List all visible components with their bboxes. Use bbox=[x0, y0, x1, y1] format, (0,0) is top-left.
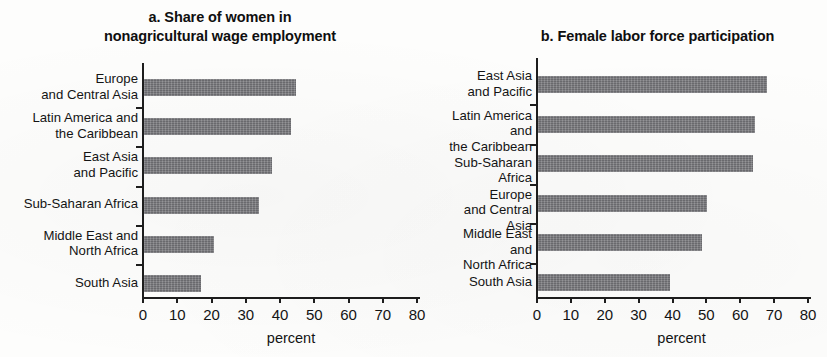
x-axis-tick bbox=[279, 297, 281, 303]
y-axis-tick bbox=[136, 146, 142, 148]
bar bbox=[144, 275, 201, 292]
x-axis-tick bbox=[739, 297, 741, 303]
x-axis-tick bbox=[416, 297, 418, 303]
chart-b-title: b. Female labor force participation bbox=[488, 27, 827, 46]
chart-a-plot: Europe and Central AsiaLatin America and… bbox=[0, 60, 440, 357]
y-axis-tick bbox=[136, 264, 142, 266]
x-axis-line bbox=[142, 297, 420, 299]
x-axis-tick bbox=[382, 297, 384, 303]
chart-a-title: a. Share of women in nonagricultural wag… bbox=[8, 8, 432, 46]
category-label: Latin America and the Caribbean bbox=[440, 108, 532, 155]
category-label: Sub-Saharan Africa bbox=[0, 196, 138, 212]
chart-a-axis-caption: percent bbox=[142, 330, 440, 346]
category-label: East Asia and Pacific bbox=[0, 149, 138, 180]
category-label: South Asia bbox=[0, 275, 138, 291]
bar bbox=[538, 76, 767, 93]
y-axis-tick bbox=[530, 184, 536, 186]
x-axis-tick-label: 40 bbox=[656, 306, 690, 323]
y-axis-tick bbox=[136, 107, 142, 109]
x-axis-tick bbox=[570, 297, 572, 303]
bar bbox=[144, 197, 259, 214]
chart-a-axes: 01020304050607080 bbox=[142, 60, 440, 357]
x-axis-tick-label: 60 bbox=[332, 306, 366, 323]
x-axis-tick bbox=[536, 297, 538, 303]
x-axis-tick-label: 60 bbox=[723, 306, 757, 323]
bar bbox=[538, 116, 755, 133]
x-axis-tick bbox=[142, 297, 144, 303]
category-label: Middle East and North Africa bbox=[0, 228, 138, 259]
x-axis-tick bbox=[807, 297, 809, 303]
x-axis-tick-label: 20 bbox=[195, 306, 229, 323]
chart-b-axis-caption: percent bbox=[536, 330, 827, 346]
x-axis-tick bbox=[773, 297, 775, 303]
y-axis-tick bbox=[136, 186, 142, 188]
chart-b-axes: 01020304050607080 bbox=[536, 55, 827, 357]
y-axis-tick bbox=[530, 263, 536, 265]
x-axis-tick-label: 50 bbox=[689, 306, 723, 323]
bar bbox=[538, 234, 702, 251]
x-axis-tick-label: 20 bbox=[588, 306, 622, 323]
x-axis-tick-label: 10 bbox=[554, 306, 588, 323]
x-axis-line bbox=[536, 297, 811, 299]
x-axis-tick bbox=[245, 297, 247, 303]
bar bbox=[538, 274, 670, 291]
y-axis-line bbox=[142, 63, 144, 297]
x-axis-tick bbox=[604, 297, 606, 303]
x-axis-tick bbox=[638, 297, 640, 303]
x-axis-tick-label: 40 bbox=[263, 306, 297, 323]
x-axis-tick-label: 10 bbox=[160, 306, 194, 323]
x-axis-tick bbox=[348, 297, 350, 303]
y-axis-line bbox=[536, 58, 538, 297]
y-axis-tick bbox=[530, 144, 536, 146]
bar bbox=[144, 236, 214, 253]
bar bbox=[538, 195, 707, 212]
category-label: Middle East and North Africa bbox=[440, 226, 532, 273]
chart-panel-a: a. Share of women in nonagricultural wag… bbox=[0, 0, 440, 357]
y-axis-tick bbox=[530, 104, 536, 106]
category-label: Europe and Central Asia bbox=[0, 71, 138, 102]
x-axis-tick-label: 30 bbox=[622, 306, 656, 323]
x-axis-tick-label: 70 bbox=[757, 306, 791, 323]
x-axis-tick bbox=[176, 297, 178, 303]
chart-b-plot: East Asia and PacificLatin America and t… bbox=[440, 55, 827, 357]
category-label: Latin America and the Caribbean bbox=[0, 110, 138, 141]
bar bbox=[144, 79, 296, 96]
x-axis-tick bbox=[313, 297, 315, 303]
x-axis-tick bbox=[672, 297, 674, 303]
x-axis-tick-label: 80 bbox=[791, 306, 825, 323]
x-axis-tick-label: 80 bbox=[400, 306, 434, 323]
bar bbox=[144, 157, 272, 174]
category-label: Sub-Saharan Africa bbox=[440, 155, 532, 186]
bar bbox=[144, 118, 291, 135]
category-label: South Asia bbox=[440, 274, 532, 290]
y-axis-tick bbox=[530, 223, 536, 225]
x-axis-tick-label: 30 bbox=[229, 306, 263, 323]
x-axis-tick-label: 0 bbox=[520, 306, 554, 323]
x-axis-tick bbox=[211, 297, 213, 303]
x-axis-tick bbox=[705, 297, 707, 303]
x-axis-tick-label: 50 bbox=[297, 306, 331, 323]
y-axis-tick bbox=[136, 225, 142, 227]
bar bbox=[538, 155, 753, 172]
x-axis-tick-label: 0 bbox=[126, 306, 160, 323]
x-axis-tick-label: 70 bbox=[366, 306, 400, 323]
figure-page: a. Share of women in nonagricultural wag… bbox=[0, 0, 827, 357]
category-label: East Asia and Pacific bbox=[440, 68, 532, 99]
